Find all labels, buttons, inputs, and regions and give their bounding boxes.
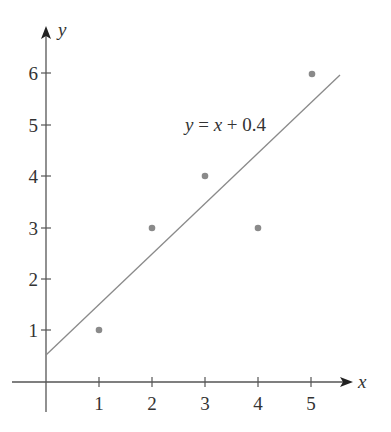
data-point [309, 71, 316, 78]
x-axis-label: x [357, 371, 367, 392]
data-points [96, 71, 316, 334]
svg-text:2: 2 [147, 393, 157, 414]
svg-text:2: 2 [29, 269, 39, 290]
svg-text:3: 3 [29, 218, 39, 239]
scatter-plot: x y 1 2 3 4 5 1 2 3 4 5 6 [0, 0, 391, 432]
y-tick-labels: 1 2 3 4 5 6 [29, 63, 39, 341]
svg-text:3: 3 [200, 393, 210, 414]
svg-text:1: 1 [94, 393, 104, 414]
svg-text:5: 5 [306, 393, 316, 414]
data-point [96, 327, 103, 334]
svg-text:6: 6 [29, 63, 39, 84]
y-axis-label: y [56, 19, 67, 40]
equation-label: y = x + 0.4 [183, 114, 267, 135]
svg-text:1: 1 [29, 320, 39, 341]
svg-text:4: 4 [253, 393, 263, 414]
data-point [202, 173, 209, 180]
data-point [149, 225, 156, 232]
svg-text:5: 5 [29, 115, 39, 136]
svg-text:4: 4 [29, 166, 39, 187]
x-tick-labels: 1 2 3 4 5 [94, 393, 316, 414]
data-point [255, 225, 262, 232]
